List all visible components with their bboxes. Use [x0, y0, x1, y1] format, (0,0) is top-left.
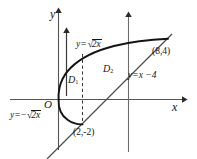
- point-label-2-neg2: (2,-2): [73, 128, 94, 138]
- coordinate-plane-region-diagram: y x O y=√2x y=−√2x y=x −4 D1 D2 (8,4) (2…: [0, 0, 197, 159]
- diagram-canvas: [0, 0, 197, 159]
- curve-label-line: y=x −4: [128, 71, 156, 81]
- radicand-upper: 2x: [92, 39, 102, 50]
- radical-sign-upper: √2x: [87, 39, 102, 50]
- curve-label-upper-lhs: y=: [76, 39, 87, 49]
- parabola-lower-branch: [59, 100, 83, 125]
- radicand-lower: 2x: [31, 110, 41, 121]
- curve-label-lower-lhs: y=: [10, 110, 21, 120]
- region-d2-subscript: 2: [110, 67, 113, 74]
- region-label-d2: D2: [103, 64, 113, 75]
- region-d1-subscript: 1: [75, 78, 78, 85]
- point-label-8-4: (8,4): [152, 47, 170, 57]
- curve-label-parabola-upper: y=√2x: [76, 39, 102, 50]
- x-axis-label: x: [172, 101, 177, 113]
- origin-label: O: [44, 99, 52, 110]
- curve-label-parabola-lower: y=−√2x: [10, 110, 41, 121]
- radical-sign-lower: √2x: [26, 110, 41, 121]
- region-label-d1: D1: [68, 75, 78, 86]
- y-axis-label: y: [50, 8, 55, 20]
